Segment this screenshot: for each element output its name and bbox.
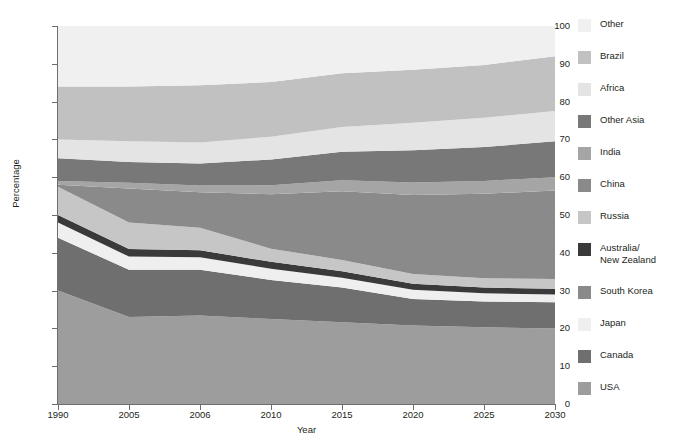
legend-item-australia-new-zealand[interactable]: Australia/ New Zealand [578, 242, 656, 265]
legend-swatch-other-asia [578, 115, 591, 128]
x-tick-label-1990: 1990 [28, 409, 88, 420]
y-tick-label-100: 100 [524, 21, 570, 31]
x-tick-label-2006: 2006 [170, 409, 230, 420]
y-tick-label-10: 10 [524, 361, 570, 371]
legend-item-canada[interactable]: Canada [578, 349, 633, 363]
legend-label-south-korea: South Korea [600, 285, 653, 297]
legend-item-south-korea[interactable]: South Korea [578, 285, 653, 299]
y-tick-90 [52, 64, 58, 65]
legend-label-australia-new-zealand: Australia/ New Zealand [600, 242, 656, 265]
x-tick-label-2020: 2020 [383, 409, 443, 420]
y-tick-label-50: 50 [524, 210, 570, 220]
y-tick-label-90: 90 [524, 59, 570, 69]
legend-swatch-south-korea [578, 286, 591, 299]
legend-swatch-africa [578, 83, 591, 96]
y-tick-label-40: 40 [524, 248, 570, 258]
chart-page: 0102030405060708090100 19902005200620102… [0, 0, 689, 441]
x-tick-label-2005: 2005 [99, 409, 159, 420]
stacked-area-chart: 0102030405060708090100 19902005200620102… [0, 0, 570, 441]
y-tick-60 [52, 177, 58, 178]
y-tick-100 [52, 26, 58, 27]
legend-swatch-canada [578, 350, 591, 363]
y-tick-label-60: 60 [524, 172, 570, 182]
legend-label-usa: USA [600, 381, 620, 393]
plot-area [58, 26, 555, 404]
x-tick-label-2015: 2015 [312, 409, 372, 420]
legend-item-other-asia[interactable]: Other Asia [578, 114, 644, 128]
legend-swatch-japan [578, 318, 591, 331]
y-tick-label-30: 30 [524, 286, 570, 296]
legend-label-japan: Japan [600, 317, 626, 329]
y-tick-50 [52, 215, 58, 216]
legend-item-india[interactable]: India [578, 146, 621, 160]
x-tick-label-2010: 2010 [241, 409, 301, 420]
legend-label-africa: Africa [600, 82, 624, 94]
legend-item-africa[interactable]: Africa [578, 82, 624, 96]
legend-label-other-asia: Other Asia [600, 114, 644, 126]
legend-swatch-brazil [578, 51, 591, 64]
y-tick-label-70: 70 [524, 134, 570, 144]
y-tick-70 [52, 139, 58, 140]
y-tick-label-20: 20 [524, 323, 570, 333]
legend-swatch-other [578, 19, 591, 32]
y-tick-label-0: 0 [524, 399, 570, 409]
legend-swatch-india [578, 147, 591, 160]
legend-item-usa[interactable]: USA [578, 381, 620, 395]
legend-label-other: Other [600, 18, 624, 30]
legend-swatch-russia [578, 211, 591, 224]
legend-label-china: China [600, 178, 625, 190]
y-tick-label-80: 80 [524, 97, 570, 107]
y-tick-80 [52, 102, 58, 103]
y-tick-20 [52, 328, 58, 329]
legend-item-other[interactable]: Other [578, 18, 624, 32]
x-axis-title: Year [58, 424, 555, 435]
area-series-canvas [58, 26, 555, 404]
legend-label-russia: Russia [600, 210, 629, 222]
legend-swatch-china [578, 179, 591, 192]
y-tick-30 [52, 291, 58, 292]
y-tick-40 [52, 253, 58, 254]
x-axis-line [57, 404, 556, 405]
x-tick-label-2025: 2025 [454, 409, 514, 420]
y-axis-title: Percentage [10, 139, 21, 229]
legend-label-brazil: Brazil [600, 50, 624, 62]
x-tick-label-2030: 2030 [525, 409, 585, 420]
legend-item-china[interactable]: China [578, 178, 625, 192]
legend-item-brazil[interactable]: Brazil [578, 50, 624, 64]
legend-swatch-usa [578, 382, 591, 395]
legend-label-india: India [600, 146, 621, 158]
legend-label-canada: Canada [600, 349, 633, 361]
y-tick-10 [52, 366, 58, 367]
legend-swatch-australia-new-zealand [578, 243, 591, 256]
legend-item-japan[interactable]: Japan [578, 317, 626, 331]
legend-item-russia[interactable]: Russia [578, 210, 629, 224]
